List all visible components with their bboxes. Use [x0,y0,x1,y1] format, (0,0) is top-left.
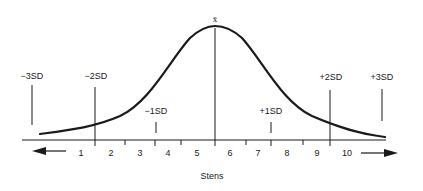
sd-plus1-label: +1SD [260,106,283,116]
sten-label-7: 7 [255,148,260,158]
sd-plus2-label: +2SD [320,72,343,82]
sten-label-6: 6 [227,148,232,158]
x-axis-title: Stens [200,171,224,181]
sten-label-1: 1 [78,148,83,158]
sten-ticks [95,140,330,146]
sd-plus3-label: +3SD [371,72,394,82]
mean-label: x̄ [213,14,218,24]
sten-label-4: 4 [165,148,170,158]
sd-minus2-label: −2SD [85,71,108,81]
sten-label-9: 9 [314,148,319,158]
right-arrow-icon [361,149,398,157]
sten-label-8: 8 [284,148,289,158]
sten-label-2: 2 [108,148,113,158]
sten-label-10: 10 [342,148,352,158]
sten-label-5: 5 [194,148,199,158]
normal-distribution-chart: −3SD −2SD −1SD x̄ +1SD +2SD +3SD 1 2 3 4… [0,0,423,191]
sd-minus1-label: −1SD [145,106,168,116]
sd-minus3-label: −3SD [21,71,44,81]
sten-label-3: 3 [137,148,142,158]
left-arrow-icon [32,147,66,155]
